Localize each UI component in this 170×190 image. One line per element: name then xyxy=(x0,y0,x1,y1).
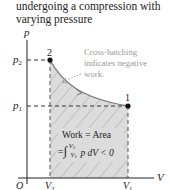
point-1-label: 1 xyxy=(125,92,130,103)
origin-label: O xyxy=(16,180,23,190)
annotation-line-1: Cross-hatching xyxy=(84,47,138,57)
work-equals-area: Work = Area xyxy=(62,130,112,140)
annotation-line-3: work. xyxy=(84,69,104,79)
state-point-1 xyxy=(125,103,130,108)
state-point-2 xyxy=(47,57,52,62)
y-axis-label: p xyxy=(23,26,30,38)
annotation-line-2: indicates negative xyxy=(84,58,147,68)
x-axis-label: V xyxy=(157,171,165,183)
pv-diagram: p V O p2 p1 V2 V1 2 1 Cross-hatching ind… xyxy=(0,0,170,190)
p2-label: p2 xyxy=(12,53,23,67)
point-2-label: 2 xyxy=(47,47,52,58)
v1-label: V1 xyxy=(123,180,133,190)
v2-label: V2 xyxy=(45,180,55,190)
p1-label: p1 xyxy=(12,99,23,113)
